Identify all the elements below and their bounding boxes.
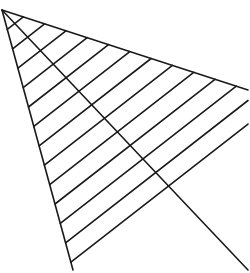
- hatch-line: [39, 59, 151, 146]
- hatch-line: [34, 52, 130, 127]
- hatch-line: [23, 38, 87, 88]
- hatch-line: [50, 72, 194, 184]
- diagonal-line: [2, 10, 248, 270]
- hatched-triangle-diagram: [0, 0, 250, 273]
- hatch-line: [18, 31, 66, 68]
- hatch-line: [29, 45, 109, 107]
- hatch-line: [66, 101, 248, 243]
- hatch-line: [13, 24, 45, 49]
- hatch-line: [55, 79, 215, 204]
